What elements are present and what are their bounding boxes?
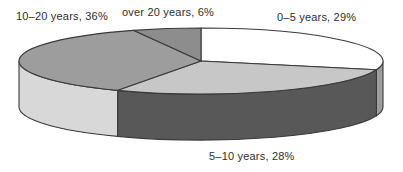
slice-label-10-20-years: 10–20 years, 36% — [16, 10, 108, 23]
slice-label-5-10-years: 5–10 years, 28% — [209, 150, 295, 163]
pie-chart-3d — [0, 0, 403, 172]
slice-label-over-20-years: over 20 years, 6% — [122, 6, 214, 19]
slice-label-0-5-years: 0–5 years, 29% — [277, 11, 356, 24]
pie-chart-figure: 10–20 years, 36%over 20 years, 6%0–5 yea… — [0, 0, 403, 172]
